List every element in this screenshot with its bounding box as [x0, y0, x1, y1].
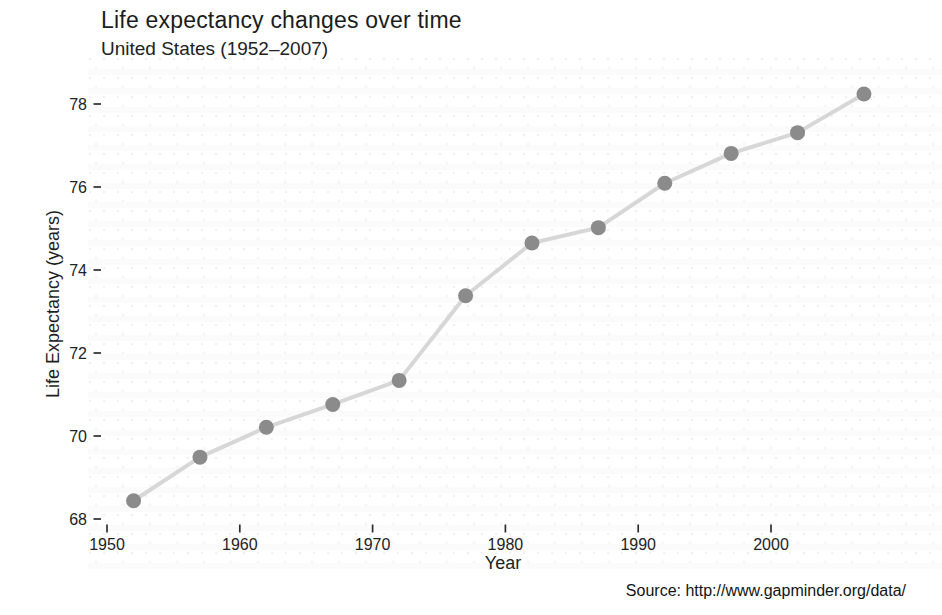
y-tick-label: 78 — [69, 96, 87, 113]
data-point — [724, 146, 739, 161]
x-tick-label: 1960 — [222, 536, 258, 553]
trend-line — [134, 94, 864, 501]
data-point — [524, 236, 539, 251]
y-tick-label: 72 — [69, 345, 87, 362]
x-tick-label: 1980 — [488, 536, 524, 553]
data-point — [325, 397, 340, 412]
chart-page: Life expectancy changes over time United… — [0, 0, 942, 615]
data-point — [790, 125, 805, 140]
x-tick-label: 1990 — [620, 536, 656, 553]
data-point — [192, 450, 207, 465]
chart-canvas: 195019601970198019902000687072747678 — [0, 0, 942, 615]
data-point — [458, 288, 473, 303]
data-point — [392, 373, 407, 388]
y-tick-label: 70 — [69, 428, 87, 445]
y-tick-label: 74 — [69, 262, 87, 279]
data-point — [259, 420, 274, 435]
data-point — [591, 220, 606, 235]
x-tick-label: 1970 — [355, 536, 391, 553]
y-tick-label: 76 — [69, 179, 87, 196]
data-point — [856, 87, 871, 102]
data-point — [657, 176, 672, 191]
x-tick-label: 2000 — [753, 536, 789, 553]
data-point — [126, 493, 141, 508]
y-tick-label: 68 — [69, 511, 87, 528]
x-tick-label: 1950 — [89, 536, 125, 553]
